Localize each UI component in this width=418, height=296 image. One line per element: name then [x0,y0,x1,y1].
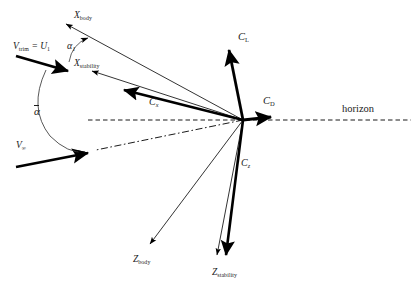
x-stability-axis [92,71,243,120]
label-x-stability: Xstability [74,59,100,69]
cz-vector [226,120,243,255]
label-v-trim: Vtrim = U1 [13,42,50,52]
label-x-body: Xbody [74,11,92,21]
label-c-x: Cx [149,97,158,107]
label-z-body: Zbody [133,255,150,265]
label-v-infinity: V∞ [16,141,26,151]
z-stability-axis [217,120,243,255]
label-z-stability: Zstability [212,268,237,278]
cd-vector [243,117,271,120]
alpha-bar-arc [38,70,85,152]
diagram-svg [0,0,418,296]
figure-canvas: Xbody Xstability Vtrim = U1 V∞ α1 α Cx C… [0,0,418,296]
label-alpha-bar: α [34,106,40,117]
v-trim-vector [16,56,68,71]
label-horizon: horizon [342,104,374,115]
label-c-z: Cz [241,158,250,168]
cl-vector [229,50,243,120]
relative-wind-line [96,120,243,150]
v-infinity-vector [16,153,88,167]
label-c-l: CL [238,32,249,43]
label-c-d: CD [263,96,275,107]
cx-vector [124,90,243,120]
label-alpha-1: α1 [67,41,75,51]
